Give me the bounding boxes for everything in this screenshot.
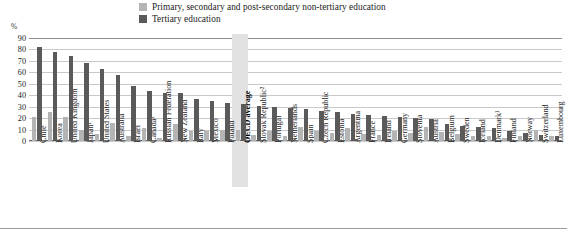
- bar-group: [220, 38, 230, 141]
- bar-tertiary: [84, 63, 89, 141]
- y-axis-tick-label: 20: [4, 114, 26, 123]
- bar-primary: [455, 134, 460, 141]
- bar-group: [392, 38, 402, 141]
- bar-primary: [220, 130, 225, 141]
- bar-tertiary: [116, 75, 121, 141]
- y-axis-tick-label: 90: [4, 34, 26, 43]
- bar-tertiary: [523, 133, 528, 141]
- bar-group: [314, 38, 324, 141]
- bar-tertiary: [210, 101, 215, 141]
- bar-primary: [189, 131, 194, 141]
- bar-tertiary: [460, 126, 465, 141]
- bar-group: [189, 38, 199, 141]
- legend-item-primary: Primary, secondary and post-secondary no…: [139, 1, 386, 12]
- y-axis-tick-label: 30: [4, 102, 26, 111]
- bar-group: [48, 38, 58, 141]
- bar-group: [157, 38, 167, 141]
- bar-primary: [408, 133, 413, 141]
- bar-tertiary: [69, 56, 74, 141]
- bar-group: [79, 38, 89, 141]
- bar-group: [32, 38, 42, 141]
- bar-primary: [79, 130, 84, 141]
- bar-tertiary: [241, 104, 246, 141]
- bar-primary: [330, 133, 335, 141]
- bar-tertiary: [178, 93, 183, 141]
- bar-tertiary: [335, 112, 340, 141]
- bar-primary: [502, 138, 507, 141]
- bar-tertiary: [507, 131, 512, 141]
- bar-tertiary: [555, 136, 560, 141]
- bar-primary: [361, 134, 366, 141]
- bar-group: [236, 38, 246, 141]
- bar-group: [518, 38, 528, 141]
- bar-primary: [48, 112, 53, 141]
- plot-area: [29, 38, 562, 141]
- bar-group: [361, 38, 371, 141]
- bar-group: [487, 38, 497, 141]
- bar-tertiary: [53, 52, 58, 141]
- bar-primary: [471, 136, 476, 141]
- bar-group: [267, 38, 277, 141]
- legend-item-tertiary: Tertiary education: [139, 13, 386, 24]
- bar-primary: [267, 131, 272, 141]
- bar-primary: [518, 136, 523, 141]
- bar-group: [549, 38, 559, 141]
- legend-label-tertiary: Tertiary education: [152, 14, 221, 24]
- bar-primary: [173, 124, 178, 141]
- bar-primary: [204, 131, 209, 141]
- y-axis-tick-label: 40: [4, 91, 26, 100]
- bar-tertiary: [194, 99, 199, 141]
- bar-primary: [345, 128, 350, 141]
- bar-primary: [377, 135, 382, 141]
- bar-group: [126, 38, 136, 141]
- chart-legend: Primary, secondary and post-secondary no…: [139, 1, 386, 25]
- legend-label-primary: Primary, secondary and post-secondary no…: [152, 2, 386, 12]
- y-axis-tick-label: 10: [4, 125, 26, 134]
- y-axis-tick-label: 80: [4, 45, 26, 54]
- bar-primary: [157, 138, 162, 141]
- bar-group: [455, 38, 465, 141]
- bar-group: [173, 38, 183, 141]
- bar-group: [110, 38, 120, 141]
- bar-group: [63, 38, 73, 141]
- bar-primary: [424, 127, 429, 141]
- bar-group: [377, 38, 387, 141]
- bar-primary: [236, 130, 241, 141]
- bar-primary: [110, 123, 115, 141]
- bar-tertiary: [288, 108, 293, 141]
- bar-group: [251, 38, 261, 141]
- bar-primary: [63, 117, 68, 141]
- bar-tertiary: [351, 114, 356, 141]
- bar-primary: [392, 131, 397, 141]
- bar-group: [534, 38, 544, 141]
- x-axis-labels: ChileKoreaUnited KingdomJapan¹United Sta…: [29, 143, 562, 229]
- bar-primary: [283, 136, 288, 141]
- bar-primary: [32, 117, 37, 141]
- bar-tertiary: [100, 69, 105, 141]
- bar-tertiary: [131, 86, 136, 141]
- y-axis-tick-label: 70: [4, 56, 26, 65]
- bar-group: [439, 38, 449, 141]
- bar-tertiary: [366, 115, 371, 141]
- y-axis-tick-label: 50: [4, 79, 26, 88]
- bar-tertiary: [319, 111, 324, 141]
- bar-primary: [439, 132, 444, 141]
- bar-tertiary: [257, 106, 262, 141]
- bar-group: [502, 38, 512, 141]
- bar-tertiary: [304, 109, 309, 141]
- bar-primary: [298, 127, 303, 141]
- y-axis-ticks: 9080706050403020100: [0, 38, 26, 141]
- bar-tertiary: [476, 127, 481, 141]
- bar-group: [95, 38, 105, 141]
- bar-primary: [142, 128, 147, 141]
- bar-primary: [534, 130, 539, 141]
- legend-swatch-primary-icon: [139, 3, 147, 11]
- bar-primary: [314, 131, 319, 141]
- bar-tertiary: [398, 117, 403, 141]
- bar-tertiary: [147, 91, 152, 141]
- bar-primary: [126, 136, 131, 141]
- y-axis-tick-label: 60: [4, 68, 26, 77]
- bar-primary: [251, 135, 256, 141]
- bar-group: [424, 38, 434, 141]
- bar-tertiary: [225, 103, 230, 141]
